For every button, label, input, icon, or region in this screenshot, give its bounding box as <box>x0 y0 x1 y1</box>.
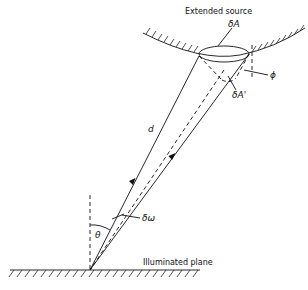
source-element-ellipse <box>199 46 249 62</box>
extended-source-surface <box>143 25 305 56</box>
illuminated-plane <box>9 270 200 277</box>
arrow-right <box>169 153 176 160</box>
delta-omega-label: δω <box>142 213 156 223</box>
illumination-diagram: Extended source δA ϕ δA' d δω θ Illumina… <box>0 0 308 290</box>
delta-a-label: δA <box>228 19 240 29</box>
delta-a-prime-leader <box>228 76 236 90</box>
theta-label: θ <box>95 230 101 240</box>
projected-area <box>199 54 249 82</box>
distance-label: d <box>148 124 154 134</box>
delta-a-prime-label: δA' <box>232 90 246 100</box>
illuminated-plane-label: Illuminated plane <box>143 258 213 267</box>
cone-line-right <box>90 54 249 270</box>
phi-label: ϕ <box>270 70 276 80</box>
phi-leader <box>244 70 268 75</box>
arrow-left <box>129 178 136 185</box>
central-ray <box>90 70 224 270</box>
cone-line-left <box>90 56 199 270</box>
delta-a-leader <box>218 28 232 46</box>
extended-source-label: Extended source <box>185 7 252 16</box>
